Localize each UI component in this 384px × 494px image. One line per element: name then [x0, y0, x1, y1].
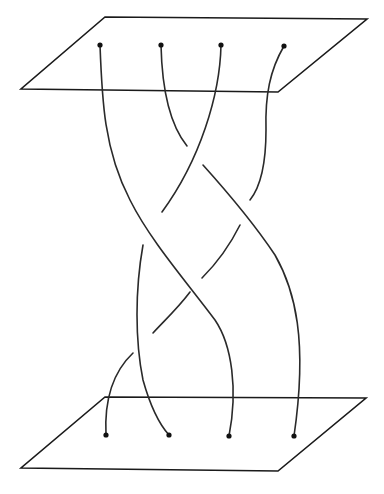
endpoint-dot	[218, 42, 223, 47]
strand-segment	[106, 353, 133, 435]
strand-segment	[202, 225, 240, 278]
endpoint-dot	[103, 432, 108, 437]
top-endpoints	[97, 42, 286, 48]
strand-segment	[250, 46, 284, 200]
endpoint-dot	[226, 433, 231, 438]
endpoint-dot	[97, 42, 102, 47]
endpoint-dot	[281, 43, 286, 48]
braid-figure	[0, 0, 384, 494]
endpoint-dot	[166, 432, 171, 437]
strand-segment	[203, 165, 300, 436]
strand-segment	[161, 45, 187, 146]
bottom-endpoints	[103, 432, 296, 438]
bottom-plane	[21, 397, 366, 471]
endpoint-dot	[291, 433, 296, 438]
strands	[100, 45, 300, 436]
top-plane	[21, 17, 367, 92]
endpoint-dot	[158, 42, 163, 47]
strand-segment	[162, 45, 221, 212]
strand-segment	[137, 245, 169, 435]
strand-segment	[153, 292, 190, 333]
